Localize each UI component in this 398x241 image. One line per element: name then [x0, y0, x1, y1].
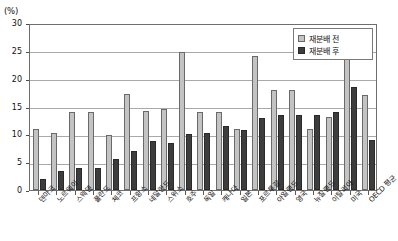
- x-tick-mark: [203, 191, 204, 195]
- bar-before-redistribution: [362, 95, 368, 190]
- bar-group: [122, 25, 140, 190]
- bar-before-redistribution: [88, 112, 94, 190]
- bar-after-redistribution: [76, 168, 82, 190]
- bar-after-redistribution: [333, 112, 339, 190]
- bar-group: [140, 25, 158, 190]
- x-tick-mark: [221, 191, 222, 195]
- x-tick-mark: [313, 191, 314, 195]
- x-tick-mark: [56, 191, 57, 195]
- bar-before-redistribution: [197, 112, 203, 190]
- bar-before-redistribution: [69, 112, 75, 190]
- bar-before-redistribution: [161, 109, 167, 190]
- x-tick-mark: [130, 191, 131, 195]
- bar-before-redistribution: [271, 90, 277, 190]
- bar-after-redistribution: [296, 115, 302, 190]
- y-tick-mark-0: [26, 191, 29, 192]
- bar-group: [85, 25, 103, 190]
- bar-after-redistribution: [278, 115, 284, 190]
- y-tick-label-0: 0: [2, 186, 22, 195]
- bar-after-redistribution: [314, 115, 320, 190]
- x-tick-mark: [350, 191, 351, 195]
- bar-after-redistribution: [241, 130, 247, 190]
- bar-before-redistribution: [51, 133, 57, 190]
- bar-before-redistribution: [106, 135, 112, 190]
- legend-item-after: 재분배 후: [298, 44, 368, 56]
- bar-group: [48, 25, 66, 190]
- bar-group: [103, 25, 121, 190]
- chart-legend: 재분배 전 재분배 후: [293, 28, 373, 60]
- bar-before-redistribution: [143, 111, 149, 190]
- bar-after-redistribution: [150, 141, 156, 190]
- x-tick-mark: [258, 191, 259, 195]
- bar-group: [213, 25, 231, 190]
- bar-before-redistribution: [344, 56, 350, 190]
- legend-label-after: 재분배 후: [309, 45, 339, 56]
- x-tick-mark: [368, 191, 369, 195]
- y-tick-label-5: 5: [2, 158, 22, 167]
- legend-swatch-before-icon: [298, 35, 305, 42]
- x-tick-mark: [295, 191, 296, 195]
- bar-after-redistribution: [204, 133, 210, 190]
- x-tick-mark: [148, 191, 149, 195]
- x-tick-mark: [185, 191, 186, 195]
- y-axis-unit-label: (%): [4, 6, 18, 16]
- bar-after-redistribution: [95, 168, 101, 190]
- bar-before-redistribution: [252, 56, 258, 190]
- bar-after-redistribution: [351, 87, 357, 190]
- bar-group: [158, 25, 176, 190]
- bar-after-redistribution: [259, 118, 265, 190]
- bar-after-redistribution: [168, 143, 174, 190]
- y-tick-label-10: 10: [2, 130, 22, 139]
- bar-group: [177, 25, 195, 190]
- bar-before-redistribution: [307, 129, 313, 190]
- x-tick-mark: [38, 191, 39, 195]
- bar-group: [67, 25, 85, 190]
- bar-after-redistribution: [186, 134, 192, 190]
- x-tick-mark: [111, 191, 112, 195]
- bar-before-redistribution: [326, 117, 332, 190]
- x-tick-mark: [75, 191, 76, 195]
- bar-before-redistribution: [124, 94, 130, 190]
- bar-after-redistribution: [369, 140, 375, 190]
- y-tick-label-25: 25: [2, 47, 22, 56]
- bar-group: [30, 25, 48, 190]
- bar-after-redistribution: [113, 159, 119, 190]
- x-tick-mark: [331, 191, 332, 195]
- bar-group: [268, 25, 286, 190]
- bar-before-redistribution: [33, 129, 39, 190]
- bar-group: [231, 25, 249, 190]
- bar-after-redistribution: [40, 179, 46, 190]
- x-tick-mark: [166, 191, 167, 195]
- bar-before-redistribution: [234, 129, 240, 190]
- legend-label-before: 재분배 전: [309, 33, 339, 44]
- bar-group: [250, 25, 268, 190]
- bar-after-redistribution: [58, 171, 64, 190]
- bar-after-redistribution: [223, 126, 229, 190]
- bar-group: [195, 25, 213, 190]
- bar-before-redistribution: [216, 112, 222, 190]
- x-tick-mark: [240, 191, 241, 195]
- y-tick-label-20: 20: [2, 75, 22, 84]
- bar-before-redistribution: [289, 90, 295, 190]
- bar-before-redistribution: [179, 52, 185, 190]
- legend-swatch-after-icon: [298, 47, 305, 54]
- x-tick-mark: [93, 191, 94, 195]
- x-tick-mark: [276, 191, 277, 195]
- y-tick-label-30: 30: [2, 19, 22, 28]
- legend-item-before: 재분배 전: [298, 32, 368, 44]
- y-tick-label-15: 15: [2, 103, 22, 112]
- bar-after-redistribution: [131, 151, 137, 190]
